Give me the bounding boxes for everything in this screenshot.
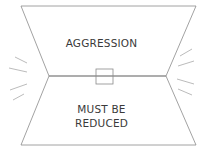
top-label: AGGRESSION [0,37,203,50]
left-emphasis-lines [9,57,27,100]
bottom-label-line1: MUST BE [0,103,203,116]
right-emphasis-lines [177,49,194,95]
bottom-label-line2: REDUCED [0,117,203,130]
